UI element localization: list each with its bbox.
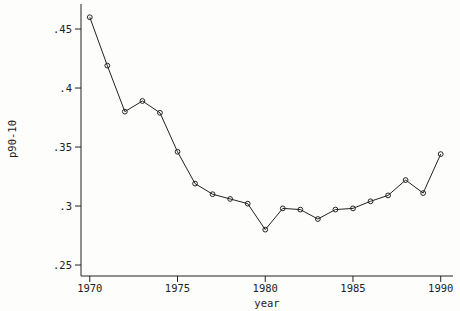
y-tick-label: .45 bbox=[53, 23, 72, 35]
y-tick-label: .4 bbox=[59, 82, 72, 94]
x-axis-label: year bbox=[254, 297, 279, 309]
y-tick-label: .3 bbox=[59, 200, 72, 212]
plot-svg: p90-10 year .25.3.35.4.45197019751980198… bbox=[0, 0, 460, 311]
x-tick-label: 1990 bbox=[428, 282, 453, 294]
y-axis-label: p90-10 bbox=[6, 120, 18, 158]
line-chart: p90-10 year .25.3.35.4.45197019751980198… bbox=[0, 0, 460, 311]
x-tick-label: 1980 bbox=[253, 282, 278, 294]
plot-area: .25.3.35.4.4519701975198019851990 bbox=[53, 4, 453, 294]
x-tick-label: 1985 bbox=[340, 282, 365, 294]
y-tick-label: .25 bbox=[53, 259, 72, 271]
x-tick-label: 1975 bbox=[165, 282, 190, 294]
y-tick-label: .35 bbox=[53, 141, 72, 153]
x-tick-label: 1970 bbox=[77, 282, 102, 294]
